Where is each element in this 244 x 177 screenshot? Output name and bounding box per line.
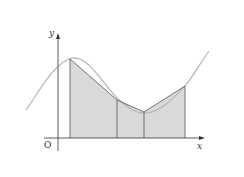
y-axis-label: y	[49, 28, 54, 38]
trapezium-diagram	[0, 0, 244, 177]
x-axis-arrow-icon	[199, 136, 205, 140]
trapezium-strips	[70, 59, 185, 138]
y-axis-arrow-icon	[56, 33, 60, 39]
origin-label: O	[44, 140, 51, 150]
x-axis-label: x	[197, 141, 202, 151]
diagram: y x O	[0, 0, 244, 177]
